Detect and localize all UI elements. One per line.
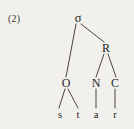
terminal-s: s <box>58 109 62 120</box>
terminal-t: t <box>77 109 80 120</box>
node-onset: O <box>62 77 71 89</box>
node-nucleus: N <box>92 77 101 89</box>
branch-onset-s <box>59 89 65 108</box>
node-coda: C <box>111 77 119 89</box>
branch-onset-t <box>68 89 78 108</box>
terminal-r: r <box>113 109 117 120</box>
node-rime: R <box>102 42 110 54</box>
branch-rime-nucleus <box>96 54 104 77</box>
branch-sigma-onset <box>66 24 76 77</box>
branch-rime-coda <box>108 54 116 77</box>
node-sigma: σ <box>75 12 82 24</box>
branch-sigma-rime <box>81 24 104 42</box>
syllable-structure-figure: (2) σ R O N C s t a r <box>0 0 134 129</box>
terminal-a: a <box>94 109 99 120</box>
